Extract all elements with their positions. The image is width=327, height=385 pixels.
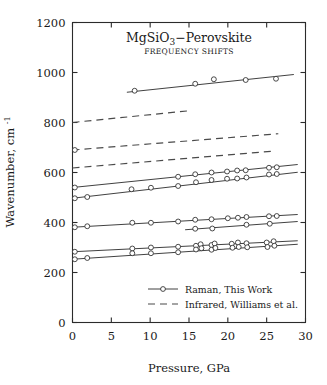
data-point	[210, 226, 215, 231]
y-tick-label-1: 200	[44, 266, 66, 280]
data-point	[213, 246, 218, 251]
data-point	[130, 251, 135, 256]
x-tick-label-0: 0	[69, 329, 76, 343]
x-tick-label-2: 10	[143, 329, 158, 343]
data-point	[267, 214, 272, 219]
chart-figure: 051015202530 020040060080010001200 MgSiO…	[0, 0, 327, 385]
x-tick-label-3: 15	[182, 329, 197, 343]
chart-title: MgSiO3−Perovskite	[126, 30, 252, 47]
data-point	[72, 225, 77, 230]
chart-subtitle: FREQUENCY SHIFTS	[144, 47, 234, 56]
data-point	[193, 217, 198, 222]
data-point	[265, 245, 270, 250]
data-point	[129, 187, 134, 192]
data-point	[244, 175, 249, 180]
data-point	[225, 169, 230, 174]
y-tick-label-5: 1000	[36, 66, 65, 80]
data-point	[148, 245, 153, 250]
data-point	[235, 168, 240, 173]
data-point	[272, 243, 277, 248]
data-point	[176, 174, 181, 179]
data-point	[132, 88, 137, 93]
data-point	[72, 185, 77, 190]
x-tick-label-1: 5	[108, 329, 115, 343]
data-point	[230, 245, 235, 250]
data-point	[225, 176, 230, 181]
x-tick-label-5: 25	[259, 329, 274, 343]
data-point	[193, 226, 198, 231]
data-point	[148, 251, 153, 256]
y-tick-label-6: 1200	[36, 16, 65, 30]
data-point	[271, 239, 276, 244]
data-point	[72, 196, 77, 201]
data-point	[194, 180, 199, 185]
data-point	[193, 172, 198, 177]
data-point	[264, 240, 269, 245]
data-point	[274, 172, 279, 177]
data-point	[267, 172, 272, 177]
data-point	[209, 170, 214, 175]
data-point	[244, 222, 249, 227]
legend-label-raman: Raman, This Work	[185, 284, 273, 295]
data-point	[194, 247, 199, 252]
data-point	[245, 245, 250, 250]
data-point	[148, 220, 153, 225]
data-point	[244, 215, 249, 220]
legend-label-infrared: Infrared, Williams et al.	[185, 299, 298, 310]
data-point	[176, 184, 181, 189]
data-point	[235, 215, 240, 220]
data-point	[267, 165, 272, 170]
y-tick-label-0: 0	[58, 316, 65, 330]
data-point	[236, 245, 241, 250]
chart-background	[0, 0, 327, 385]
data-point	[209, 217, 214, 222]
data-point	[243, 78, 248, 83]
data-point	[130, 220, 135, 225]
x-axis-title: Pressure, GPa	[148, 361, 230, 375]
data-point	[267, 221, 272, 226]
data-point	[193, 81, 198, 86]
data-point	[130, 246, 135, 251]
y-axis-title: Wavenumber, cm -1	[3, 116, 17, 227]
data-point	[235, 240, 240, 245]
data-point	[243, 168, 248, 173]
y-tick-label-2: 400	[44, 216, 66, 230]
data-point	[199, 246, 204, 251]
frequency-shift-scatter-plot: 051015202530 020040060080010001200 MgSiO…	[0, 0, 327, 385]
data-point	[176, 250, 181, 255]
x-tick-label-4: 20	[221, 329, 236, 343]
data-point	[176, 219, 181, 224]
data-point	[176, 244, 181, 249]
data-point	[72, 249, 77, 254]
x-tick-label-6: 30	[298, 329, 313, 343]
data-point	[274, 165, 279, 170]
data-point	[274, 76, 279, 81]
data-point	[148, 185, 153, 190]
data-point	[274, 214, 279, 219]
data-point	[225, 216, 230, 221]
legend-raman-swatch-marker	[161, 287, 166, 292]
data-point	[235, 176, 240, 181]
data-point	[209, 178, 214, 183]
data-point	[72, 257, 77, 262]
y-tick-label-4: 800	[44, 116, 66, 130]
y-tick-label-3: 600	[44, 166, 66, 180]
data-point	[85, 195, 90, 200]
data-point	[212, 241, 217, 246]
data-point	[85, 224, 90, 229]
data-point	[72, 148, 77, 153]
data-point	[211, 77, 216, 82]
data-point	[85, 256, 90, 261]
